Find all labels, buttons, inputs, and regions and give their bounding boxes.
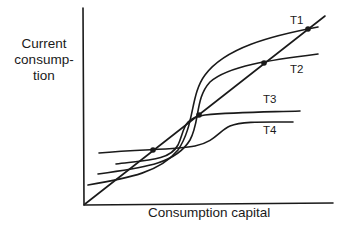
- equilibrium-point-t2: [261, 60, 267, 66]
- equilibrium-point-t1: [305, 26, 311, 32]
- curve-label-t3: T3: [263, 93, 276, 105]
- chart-plot: [0, 0, 348, 231]
- curve-t1: [88, 27, 318, 185]
- curve-t3: [116, 111, 300, 164]
- x-axis-label: Consumption capital: [148, 205, 270, 220]
- y-axis: [83, 8, 84, 205]
- curve-label-t1: T1: [290, 14, 303, 26]
- curve-label-t2: T2: [290, 63, 303, 75]
- curve-label-t4: T4: [263, 124, 276, 136]
- equilibrium-point-low: [150, 147, 156, 153]
- equilibrium-point-t3: [196, 112, 202, 118]
- diagonal-line: [85, 16, 325, 204]
